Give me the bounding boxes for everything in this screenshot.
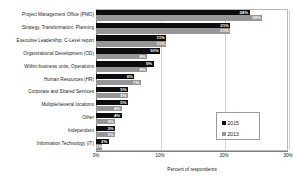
bar-group: 5%5%	[96, 86, 288, 99]
bar-value-label: 3%	[96, 126, 115, 131]
bar-value-label: 3%	[96, 119, 115, 124]
bar-value-label: 5%	[96, 93, 128, 98]
bar-group: 9%8%	[96, 61, 288, 74]
bar-value-label: 10%	[96, 48, 160, 53]
category-label: Independent	[2, 125, 94, 138]
bar-row: Within business units, Operations9%8%	[0, 61, 293, 74]
bar-row: Information Technology (IT)2%1%	[0, 138, 293, 151]
legend-item-2013: 2013	[222, 129, 239, 137]
bar-row: Corporate and Shared Services5%5%	[0, 86, 293, 99]
bar-row: Human Resources (HR)6%7%	[0, 74, 293, 87]
x-axis-line	[96, 151, 288, 152]
category-label: Executive Leadership, C-Level report	[2, 35, 94, 48]
x-axis-tick-labels: 0%10%20%30%	[96, 153, 288, 163]
x-tick-label: 10%	[155, 153, 164, 158]
bar-value-label: 1%	[96, 144, 102, 149]
bar-row: Strategy, Transformation, Planning21%21%	[0, 22, 293, 35]
category-label: Other	[2, 112, 94, 125]
bar-group: 24%26%	[96, 9, 288, 22]
x-axis-title: Percent of respondents	[96, 167, 288, 172]
legend: 2015 2013	[216, 112, 260, 140]
bar-value-label: 8%	[96, 54, 147, 59]
category-label: Corporate and Shared Services	[2, 86, 94, 99]
bar-group: 2%1%	[96, 138, 288, 151]
bar-value-label: 5%	[96, 87, 128, 92]
bar-group: 6%7%	[96, 74, 288, 87]
bar-value-label: 21%	[96, 23, 230, 28]
bar-group: 10%8%	[96, 48, 288, 61]
category-label: Project Management Office (PMO)	[2, 9, 94, 22]
bar-value-label: 4%	[96, 113, 122, 118]
x-tick-label: 20%	[219, 153, 228, 158]
bar-value-label: 9%	[96, 61, 154, 66]
bar-value-label: 11%	[96, 41, 166, 46]
bar-value-label: 5%	[96, 100, 128, 105]
bar-value-label: 21%	[96, 28, 230, 33]
bar-value-label: 11%	[96, 35, 166, 40]
legend-label: 2013	[228, 130, 239, 138]
bar-chart: Project Management Office (PMO)24%26%Str…	[0, 0, 293, 183]
bar-group: 11%11%	[96, 35, 288, 48]
bar-row: Organizational Development (OD)10%8%	[0, 48, 293, 61]
category-label: Strategy, Transformation, Planning	[2, 22, 94, 35]
bar-row: Multiple/several locations5%4%	[0, 99, 293, 112]
bar-group: 5%4%	[96, 99, 288, 112]
bar-value-label: 24%	[96, 10, 250, 15]
x-tick-label: 30%	[283, 153, 292, 158]
bar-group: 21%21%	[96, 22, 288, 35]
category-label: Human Resources (HR)	[2, 74, 94, 87]
bar-value-label: 7%	[96, 80, 141, 85]
legend-label: 2015	[228, 119, 239, 127]
category-label: Information Technology (IT)	[2, 138, 94, 151]
legend-item-2015: 2015	[222, 118, 239, 126]
bar-value-label: 3%	[96, 132, 115, 137]
bar-value-label: 6%	[96, 74, 134, 79]
bar-row: Project Management Office (PMO)24%26%	[0, 9, 293, 22]
category-label: Organizational Development (OD)	[2, 48, 94, 61]
legend-swatch-icon	[222, 132, 226, 136]
bar-value-label: 4%	[96, 106, 122, 111]
bar-value-label: 8%	[96, 67, 147, 72]
legend-swatch-icon	[222, 121, 226, 125]
category-label: Within business units, Operations	[2, 61, 94, 74]
x-tick-label: 0%	[93, 153, 100, 158]
bar-value-label: 26%	[96, 15, 262, 20]
category-label: Multiple/several locations	[2, 99, 94, 112]
bar-row: Executive Leadership, C-Level report11%1…	[0, 35, 293, 48]
bar-value-label: 2%	[96, 139, 109, 144]
